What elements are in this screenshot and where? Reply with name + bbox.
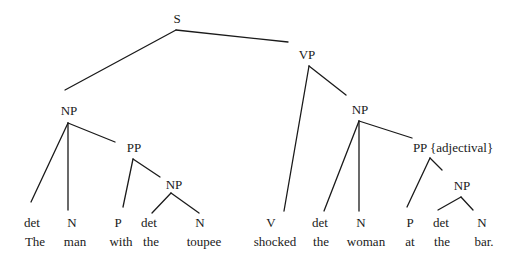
edge-np-pp [68,123,115,142]
edge-pp-np [133,159,160,177]
leaf-word-the-2: the [143,235,159,249]
node-s: S [173,12,180,26]
leaf-category-det-2: det [141,216,157,230]
leaf-word-the-1: The [25,235,45,249]
leaf-category-det-1: det [24,216,40,230]
leaf-category-det-3: det [312,216,328,230]
node-pp-subject: PP [127,141,141,155]
node-pp-adjectival: PP {adjectival} [413,141,493,155]
node-np-subject: NP [61,104,78,118]
leaf-word-woman: woman [347,235,385,249]
edge-np-det-bar [438,197,461,210]
leaf-word-the-3: the [313,235,329,249]
edge-np-det [31,123,68,202]
edge-np-det-obj [324,121,359,211]
edge-s-np [65,30,176,90]
leaf-word-man: man [64,235,86,249]
leaf-category-n-1: N [67,216,76,230]
edge-s-vp [176,30,288,42]
leaf-category-p-1: P [114,216,121,230]
leaf-category-v: V [266,216,275,230]
leaf-word-toupee: toupee [187,235,222,249]
edge-np-n-bar [461,197,473,210]
edge-pp-p-at [407,158,430,207]
leaf-word-the-4: the [434,235,450,249]
leaf-category-det-4: det [433,216,449,230]
leaf-word-shocked: shocked [254,235,297,249]
leaf-category-n-4: N [477,216,486,230]
edge-vp-v [284,66,309,211]
leaf-word-with: with [109,235,132,249]
node-vp: VP [299,48,316,62]
edge-pp-np-bar [430,158,442,170]
leaf-word-bar: bar. [474,235,493,249]
leaf-category-n-3: N [356,216,365,230]
node-np-object: NP [352,103,369,117]
edge-pp-p [123,159,133,207]
edge-np-det-the [152,193,171,213]
node-np-bar: NP [454,179,471,193]
node-np-toupee: NP [166,178,183,192]
edge-np-n-toupee [171,193,199,213]
leaf-category-p-2: P [406,216,413,230]
leaf-category-n-2: N [195,216,204,230]
leaf-word-at: at [405,235,414,249]
edge-np-pp-obj [359,121,412,138]
edge-vp-np [309,66,346,95]
